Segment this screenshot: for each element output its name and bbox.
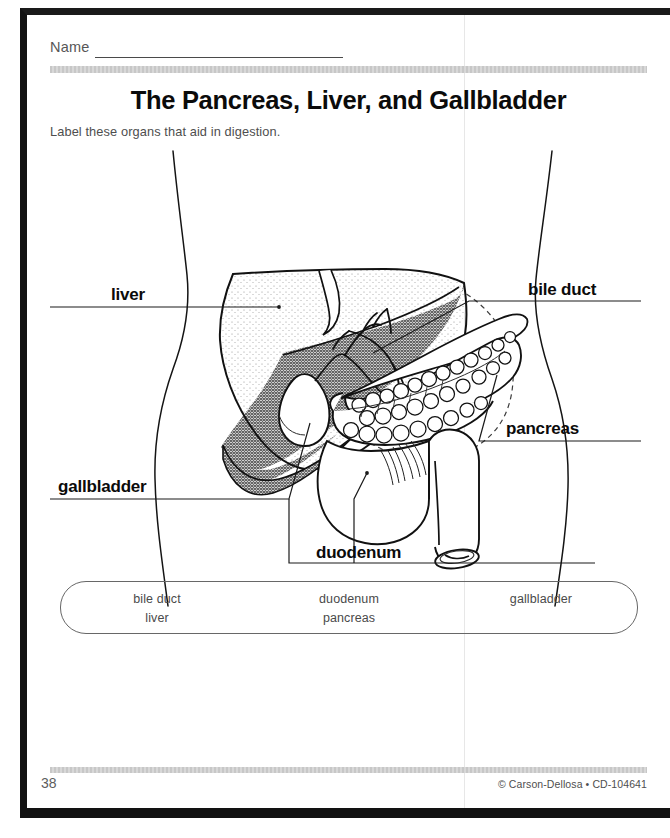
- word-bank-word[interactable]: duodenum: [253, 590, 445, 609]
- word-bank-column-1: bile duct liver: [61, 590, 253, 628]
- label-liver: liver: [111, 285, 145, 305]
- instructions-text: Label these organs that aid in digestion…: [50, 124, 280, 139]
- word-bank-word[interactable]: liver: [61, 609, 253, 628]
- label-gallbladder: gallbladder: [58, 477, 147, 497]
- worksheet-page: Name The Pancreas, Liver, and Gallbladde…: [27, 15, 670, 808]
- copyright-credit: © Carson-Dellosa • CD-104641: [498, 778, 647, 790]
- word-bank-word[interactable]: pancreas: [253, 609, 445, 628]
- label-pancreas: pancreas: [506, 419, 579, 439]
- footer-divider-bar: [50, 767, 647, 773]
- name-write-in-line[interactable]: [95, 57, 343, 58]
- page-title: The Pancreas, Liver, and Gallbladder: [27, 86, 670, 115]
- label-bile-duct: bile duct: [528, 280, 596, 300]
- word-bank-column-3: gallbladder: [445, 590, 637, 628]
- word-bank-word[interactable]: bile duct: [61, 590, 253, 609]
- header-divider-bar: [50, 66, 647, 73]
- word-bank-word[interactable]: gallbladder: [445, 590, 637, 609]
- scanned-worksheet-page: Name The Pancreas, Liver, and Gallbladde…: [0, 0, 670, 838]
- scan-border-bottom: [20, 808, 670, 818]
- name-field-row: Name: [50, 39, 350, 61]
- scan-edge-strip: [0, 822, 670, 838]
- label-duodenum: duodenum: [316, 543, 401, 563]
- word-bank: bile duct liver duodenum pancreas gallbl…: [60, 581, 638, 634]
- name-label: Name: [50, 39, 89, 55]
- word-bank-grid: bile duct liver duodenum pancreas gallbl…: [61, 590, 637, 628]
- page-number: 38: [41, 775, 57, 791]
- word-bank-column-2: duodenum pancreas: [253, 590, 445, 628]
